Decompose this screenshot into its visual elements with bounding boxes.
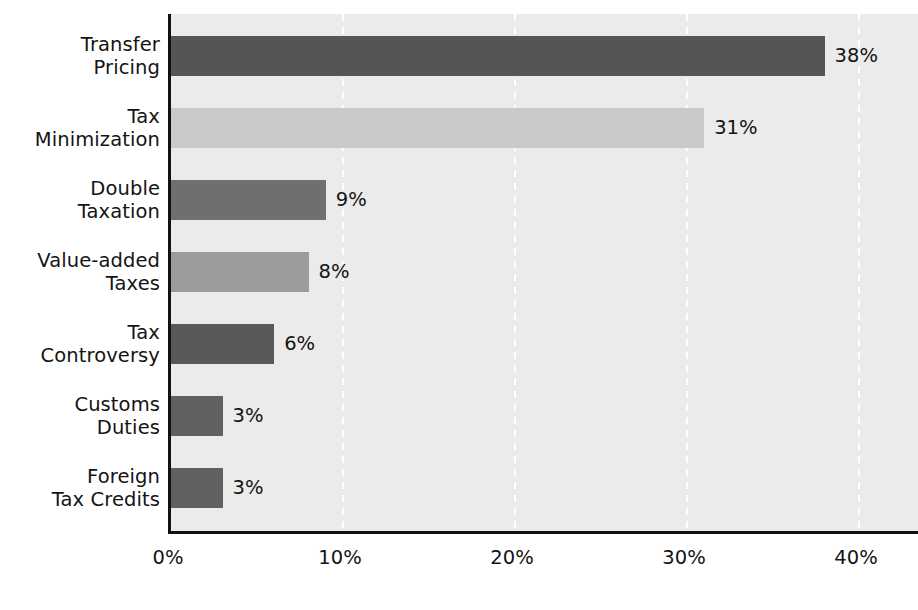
bar-tax-controversy: [171, 324, 274, 364]
bar-value-label: 9%: [336, 180, 367, 220]
bar-chart: Transfer Pricing Tax Minimization Double…: [0, 0, 918, 610]
bar-value-label: 3%: [233, 468, 264, 508]
bar-value-label: 38%: [835, 36, 878, 76]
category-label: Tax Controversy: [0, 321, 160, 367]
x-tick-label: 30%: [639, 546, 729, 569]
x-tick-label: 40%: [811, 546, 901, 569]
bar-tax-minimization: [171, 108, 704, 148]
category-label: Foreign Tax Credits: [0, 465, 160, 511]
gridline-40: [858, 14, 860, 531]
bar-customs-duties: [171, 396, 223, 436]
bar-value-added-taxes: [171, 252, 309, 292]
y-axis-category-labels: Transfer Pricing Tax Minimization Double…: [0, 14, 160, 534]
bar-value-label: 3%: [233, 396, 264, 436]
x-tick-label: 20%: [467, 546, 557, 569]
x-axis-tick-labels: 0% 10% 20% 30% 40%: [0, 540, 918, 580]
bar-value-label: 8%: [319, 252, 350, 292]
category-label: Double Taxation: [0, 177, 160, 223]
gridline-20: [514, 14, 516, 531]
bar-value-label: 6%: [284, 324, 315, 364]
bar-value-label: 31%: [714, 108, 757, 148]
category-label: Customs Duties: [0, 393, 160, 439]
category-label: Tax Minimization: [0, 105, 160, 151]
plot-area: 38% 31% 9% 8% 6% 3% 3%: [168, 14, 918, 534]
bar-transfer-pricing: [171, 36, 825, 76]
category-label: Transfer Pricing: [0, 33, 160, 79]
bar-double-taxation: [171, 180, 326, 220]
gridline-30: [686, 14, 688, 531]
category-label: Value-added Taxes: [0, 249, 160, 295]
x-tick-label: 0%: [123, 546, 213, 569]
x-tick-label: 10%: [295, 546, 385, 569]
bar-foreign-tax-credits: [171, 468, 223, 508]
